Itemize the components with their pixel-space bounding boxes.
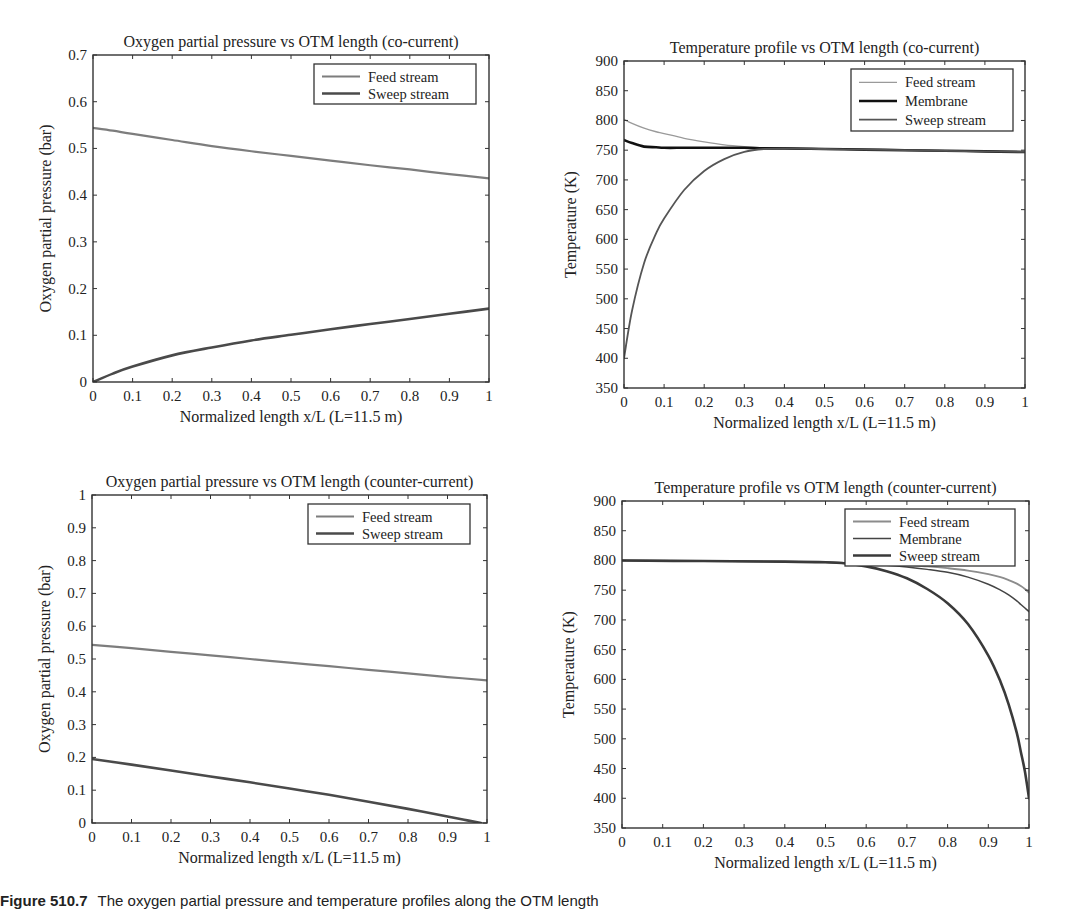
x-tick-label: 1 xyxy=(1021,394,1029,410)
chart-title: Oxygen partial pressure vs OTM length (c… xyxy=(106,473,474,491)
figure-caption-text: The oxygen partial pressure and temperat… xyxy=(98,892,599,909)
x-tick-label: 0.5 xyxy=(282,388,301,404)
x-tick-label: 0.3 xyxy=(202,388,221,404)
y-tick-label: 0 xyxy=(79,815,87,831)
x-tick-label: 1 xyxy=(483,829,491,845)
x-tick-label: 0.4 xyxy=(241,829,260,845)
y-tick-label: 0.1 xyxy=(68,327,87,343)
y-tick-label: 650 xyxy=(596,202,619,218)
series-line-sweep-stream xyxy=(92,759,481,823)
y-tick-label: 0.5 xyxy=(67,651,86,667)
legend-entry: Feed stream xyxy=(368,69,439,85)
x-tick-label: 0.9 xyxy=(976,394,995,410)
x-tick-label: 0.1 xyxy=(122,829,141,845)
series-line-feed-stream xyxy=(93,128,489,178)
y-tick-label: 750 xyxy=(594,582,617,598)
legend-entry: Sweep stream xyxy=(899,548,981,564)
y-axis-label: Oxygen partial pressure (bar) xyxy=(36,565,54,753)
y-tick-label: 0.6 xyxy=(67,618,86,634)
series-line-sweep-stream xyxy=(93,309,489,382)
y-tick-label: 0.2 xyxy=(67,749,86,765)
legend: Feed streamSweep stream xyxy=(308,504,470,544)
plot-area xyxy=(624,119,1025,358)
x-tick-label: 0.2 xyxy=(163,388,182,404)
y-tick-label: 550 xyxy=(596,261,619,277)
legend-entry: Feed stream xyxy=(905,74,976,90)
x-axis-label: Normalized length x/L (L=11.5 m) xyxy=(180,408,402,426)
y-tick-label: 0.6 xyxy=(68,94,87,110)
x-tick-label: 0.2 xyxy=(695,394,714,410)
legend: Feed streamMembraneSweep stream xyxy=(845,509,1015,566)
x-tick-label: 0.2 xyxy=(694,834,713,850)
x-tick-label: 0.7 xyxy=(898,834,917,850)
y-tick-label: 700 xyxy=(594,612,617,628)
x-axis-label: Normalized length x/L (L=11.5 m) xyxy=(713,414,935,432)
x-tick-label: 0.5 xyxy=(816,834,835,850)
y-tick-label: 600 xyxy=(596,231,619,247)
y-tick-label: 350 xyxy=(596,380,619,396)
legend-entry: Membrane xyxy=(899,531,962,547)
y-tick-label: 0.7 xyxy=(68,47,87,63)
legend-entry: Feed stream xyxy=(899,514,970,530)
y-tick-label: 0.5 xyxy=(68,140,87,156)
x-tick-label: 0.4 xyxy=(242,388,261,404)
x-tick-label: 0.2 xyxy=(162,829,181,845)
series-line-membrane xyxy=(622,560,1029,611)
x-tick-label: 0.6 xyxy=(857,834,876,850)
y-tick-label: 0.8 xyxy=(67,553,86,569)
x-tick-label: 0 xyxy=(620,394,628,410)
plot-area xyxy=(622,560,1029,798)
y-tick-label: 650 xyxy=(594,642,617,658)
x-tick-label: 0.8 xyxy=(938,834,957,850)
x-tick-label: 0 xyxy=(89,388,97,404)
y-tick-label: 0.1 xyxy=(67,782,86,798)
x-tick-label: 1 xyxy=(1025,834,1033,850)
series-line-feed-stream xyxy=(92,645,487,680)
x-tick-label: 0.8 xyxy=(935,394,954,410)
x-tick-label: 0.6 xyxy=(321,388,340,404)
x-tick-label: 0.9 xyxy=(440,388,459,404)
legend-entry: Membrane xyxy=(905,93,968,109)
chart-o2-countercurrent: Oxygen partial pressure vs OTM length (c… xyxy=(36,473,491,867)
x-tick-label: 0.8 xyxy=(399,829,418,845)
y-tick-label: 700 xyxy=(596,172,619,188)
x-axis-label: Normalized length x/L (L=11.5 m) xyxy=(714,854,936,872)
series-line-sweep-stream xyxy=(622,560,1029,798)
x-tick-label: 0.6 xyxy=(320,829,339,845)
y-tick-label: 0.7 xyxy=(67,585,86,601)
x-tick-label: 0.9 xyxy=(438,829,457,845)
plot-area xyxy=(92,645,487,823)
x-tick-label: 0.7 xyxy=(361,388,380,404)
x-tick-label: 0.3 xyxy=(735,394,754,410)
figure-caption-label: Figure 510.7 xyxy=(0,892,88,909)
chart-temp-cocurrent: Temperature profile vs OTM length (co-cu… xyxy=(562,39,1029,432)
legend: Feed streamMembraneSweep stream xyxy=(851,69,1013,131)
y-tick-label: 0.2 xyxy=(68,281,87,297)
x-tick-label: 0.4 xyxy=(775,834,794,850)
x-tick-label: 0.5 xyxy=(815,394,834,410)
y-tick-label: 550 xyxy=(594,701,617,717)
x-tick-label: 0.3 xyxy=(201,829,220,845)
x-tick-label: 1 xyxy=(485,388,493,404)
x-tick-label: 0.3 xyxy=(735,834,754,850)
chart-o2-cocurrent: Oxygen partial pressure vs OTM length (c… xyxy=(37,33,493,426)
x-tick-label: 0.5 xyxy=(280,829,299,845)
x-tick-label: 0.4 xyxy=(775,394,794,410)
x-axis-label: Normalized length x/L (L=11.5 m) xyxy=(178,849,400,867)
legend-entry: Feed stream xyxy=(362,509,433,525)
y-tick-label: 0.3 xyxy=(67,717,86,733)
x-tick-label: 0 xyxy=(618,834,626,850)
y-tick-label: 850 xyxy=(594,523,617,539)
x-tick-label: 0.1 xyxy=(653,834,672,850)
x-tick-label: 0.1 xyxy=(655,394,674,410)
x-tick-label: 0.7 xyxy=(895,394,914,410)
x-tick-label: 0.1 xyxy=(123,388,142,404)
y-tick-label: 0.3 xyxy=(68,234,87,250)
y-tick-label: 450 xyxy=(594,761,617,777)
y-tick-label: 850 xyxy=(596,83,619,99)
y-tick-label: 400 xyxy=(594,790,617,806)
y-tick-label: 450 xyxy=(596,321,619,337)
y-tick-label: 800 xyxy=(594,552,617,568)
y-tick-label: 1 xyxy=(79,487,87,503)
